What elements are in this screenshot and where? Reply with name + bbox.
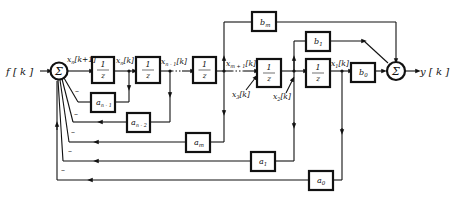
svg-text:Σ: Σ xyxy=(391,65,400,78)
output-summer: Σ xyxy=(387,62,405,80)
svg-text:1: 1 xyxy=(100,60,105,69)
svg-text:z: z xyxy=(266,75,271,83)
gain-a-n-2: an - 2 xyxy=(127,113,150,132)
gain-b-1: b1 xyxy=(306,32,330,51)
input-summer: Σ xyxy=(51,63,68,80)
minus-sign: – xyxy=(71,127,75,136)
svg-text:z: z xyxy=(100,72,105,80)
delay-block-4: 1 z xyxy=(257,59,281,87)
signal-x1-k: x1[k] xyxy=(331,59,349,69)
svg-text:z: z xyxy=(202,72,207,80)
input-label: f [ k ] xyxy=(5,66,33,77)
gain-b-0: b0 xyxy=(351,63,375,82)
delay-block-5: 1 z xyxy=(306,59,330,87)
svg-text:1: 1 xyxy=(145,60,150,69)
delay-block-2: 1 z xyxy=(136,57,160,83)
signal-x2-k: x2[k] xyxy=(273,92,291,102)
signal-xn-k: xn[k] xyxy=(116,56,134,66)
gain-a-n-1: an - 1 xyxy=(91,93,115,112)
minus-sign: – xyxy=(61,165,65,174)
gain-a-0: a0 xyxy=(309,171,333,190)
gain-a-1: a1 xyxy=(251,152,275,171)
minus-sign: – xyxy=(68,146,72,155)
block-diagram: Σ Σ 1 z 1 z 1 z 1 z 1 z bm xyxy=(0,0,452,199)
svg-text:1: 1 xyxy=(266,63,271,72)
gain-b-m: bm xyxy=(252,12,276,31)
output-label: y [ k ] xyxy=(419,66,449,77)
signal-xn-k1: xn[k+1] xyxy=(67,55,96,65)
svg-text:z: z xyxy=(315,75,320,83)
delay-block-3: 1 z xyxy=(193,57,216,83)
svg-text:z: z xyxy=(145,72,150,80)
signal-x3-k: x3[k] xyxy=(232,90,250,100)
svg-text:Σ: Σ xyxy=(54,65,63,78)
svg-text:1: 1 xyxy=(315,63,320,72)
minus-sign: – xyxy=(74,109,78,118)
minus-sign: – xyxy=(75,86,79,95)
signal-xm1-k: xm + 1[k] xyxy=(226,59,256,69)
svg-text:1: 1 xyxy=(202,60,207,69)
signal-xn1-k: xn - 1[k] xyxy=(161,57,187,67)
gain-a-m: am xyxy=(186,133,210,152)
